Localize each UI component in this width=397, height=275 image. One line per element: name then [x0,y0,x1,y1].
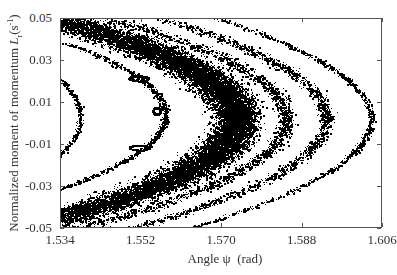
y-axis-unit-superscript: -1 [6,19,15,26]
x-tick-mark [221,18,222,22]
x-tick-mark [382,18,383,22]
y-axis-label: Normalized moment of momentum Lr(s-1) [6,14,24,231]
x-tick-label: 1.588 [277,233,327,246]
y-axis-label-subscript: r [15,35,24,38]
x-tick-mark [141,18,142,22]
plot-frame [60,18,382,228]
x-tick-label: 1.534 [35,233,85,246]
y-axis-unit-open: (s [6,25,21,34]
y-tick-mark [60,102,64,103]
figure: 0.050.030.01-0.01-0.03-0.05 1.5341.5521.… [0,0,397,275]
y-axis-label-symbol: L [6,37,21,44]
y-tick-mark [60,144,64,145]
x-tick-mark [302,18,303,22]
x-tick-label: 1.570 [196,233,246,246]
x-tick-label: 1.552 [116,233,166,246]
x-tick-mark [302,223,303,227]
y-tick-mark [377,60,381,61]
y-tick-mark [377,18,381,19]
x-axis-label: Angle ψ (rad) [150,251,300,267]
y-tick-mark [377,228,381,229]
y-tick-mark [60,60,64,61]
y-tick-mark [377,144,381,145]
y-tick-mark [60,228,64,229]
x-tick-mark [60,18,61,22]
y-axis-unit-close: ) [6,14,21,18]
x-tick-mark [221,223,222,227]
y-tick-mark [60,186,64,187]
x-tick-mark [141,223,142,227]
y-axis-label-text: Normalized moment of momentum [6,45,21,232]
y-tick-mark [377,102,381,103]
x-tick-mark [382,223,383,227]
x-tick-mark [60,223,61,227]
y-tick-mark [377,186,381,187]
x-tick-label: 1.606 [357,233,397,246]
